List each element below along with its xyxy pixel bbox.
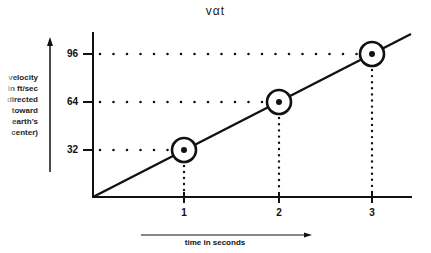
x-axis-label: time in seconds (150, 238, 280, 247)
x-tick-3: 3 (365, 207, 379, 218)
x-tick-2: 2 (272, 207, 286, 218)
data-point-1 (172, 138, 196, 162)
x-tick-1: 1 (177, 207, 191, 218)
data-point-3 (360, 42, 384, 66)
y-tick-96: 96 (56, 48, 78, 59)
y-tick-64: 64 (56, 96, 78, 107)
data-point-2 (267, 90, 291, 114)
x-direction-arrow-icon (141, 233, 312, 238)
y-direction-arrow-icon (47, 37, 53, 172)
y-tick-32: 32 (56, 144, 78, 155)
